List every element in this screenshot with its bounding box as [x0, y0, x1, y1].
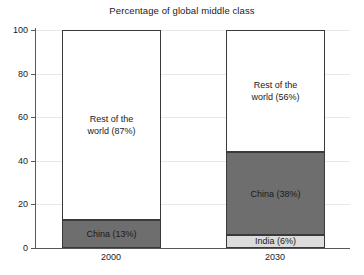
segment-india-2030[interactable]: India (6%)	[226, 235, 325, 248]
y-tick-mark-100	[31, 30, 35, 31]
segment-china-2000[interactable]: China (13%)	[62, 220, 161, 248]
x-tick-label-2030: 2030	[215, 252, 335, 262]
y-tick-label-100: 100	[2, 25, 28, 35]
y-tick-label-60: 60	[2, 112, 28, 122]
bar-2030[interactable]: Rest of the world (56%) China (38%) Indi…	[226, 30, 325, 248]
segment-label-china-2000: China (13%)	[86, 228, 136, 240]
y-tick-mark-80	[31, 74, 35, 75]
segment-rest-of-world-2030[interactable]: Rest of the world (56%)	[226, 30, 325, 152]
segment-china-2030[interactable]: China (38%)	[226, 152, 325, 235]
bar-2000[interactable]: Rest of the world (87%) China (13%)	[62, 30, 161, 248]
y-tick-mark-40	[31, 161, 35, 162]
y-tick-label-40: 40	[2, 156, 28, 166]
segment-rest-of-world-2000[interactable]: Rest of the world (87%)	[62, 30, 161, 220]
y-tick-mark-60	[31, 117, 35, 118]
x-axis	[35, 248, 350, 249]
segment-label-china-2030: China (38%)	[250, 188, 300, 200]
y-tick-label-0: 0	[2, 243, 28, 253]
segment-label-rest-of-world-2030: Rest of the world (56%)	[251, 79, 299, 103]
y-tick-mark-20	[31, 204, 35, 205]
segment-label-rest-of-world-2000: Rest of the world (87%)	[87, 113, 135, 137]
plot-area: Rest of the world (87%) China (13%) Rest…	[35, 30, 350, 248]
y-tick-label-20: 20	[2, 199, 28, 209]
y-tick-mark-0	[31, 248, 35, 249]
x-tick-label-2000: 2000	[51, 252, 171, 262]
y-axis	[35, 28, 36, 249]
y-tick-label-80: 80	[2, 69, 28, 79]
segment-label-india-2030: India (6%)	[255, 235, 296, 247]
chart-title: Percentage of global middle class	[0, 5, 364, 16]
chart-container: Percentage of global middle class Rest o…	[0, 0, 364, 275]
